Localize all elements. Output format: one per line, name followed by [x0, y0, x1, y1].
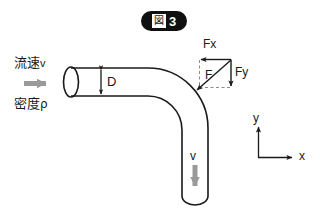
density-label-symbol: ρ	[40, 97, 48, 111]
inlet-velocity-label: 流速v	[14, 56, 46, 69]
force-y-label: Fy	[235, 66, 248, 78]
pipe-bend-diagram	[0, 0, 320, 219]
force-x-label: Fx	[203, 38, 216, 50]
coordinate-axes	[258, 127, 292, 158]
inlet-velocity-label-jp: 流速	[14, 55, 40, 70]
pipe-outlet-end	[182, 196, 208, 205]
pipe-outline	[64, 67, 209, 205]
figure-title-badge: 図 3	[141, 11, 187, 31]
figure-canvas: 図 3 流速v 密度ρ D Fx Fy F v y x	[0, 0, 320, 219]
density-label-jp: 密度	[14, 96, 40, 111]
inlet-velocity-label-symbol: v	[40, 57, 46, 69]
pipe-inlet-opening	[64, 67, 79, 97]
outlet-velocity-label: v	[190, 150, 196, 162]
pipe-inner-wall	[71, 96, 182, 196]
density-label: 密度ρ	[14, 97, 48, 110]
pipe-outer-wall	[71, 68, 208, 196]
axis-y-label: y	[253, 112, 259, 124]
figure-title-badge-inner: 図 3	[141, 11, 187, 31]
f-resultant-arrow-icon	[197, 60, 231, 90]
figure-kanji-glyph: 図	[152, 14, 166, 28]
diameter-label: D	[107, 75, 116, 88]
force-vector-group	[197, 60, 231, 91]
figure-number: 3	[169, 14, 176, 29]
force-resultant-label: F	[205, 69, 212, 81]
axis-x-label: x	[299, 150, 305, 162]
